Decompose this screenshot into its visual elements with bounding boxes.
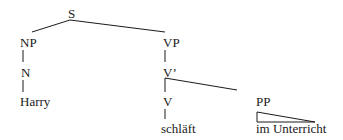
node-s: S [68,7,75,20]
node-np: NP [20,36,37,49]
edge-s-np [32,20,70,32]
node-n: N [21,66,30,79]
leaf-harry: Harry [20,95,50,108]
leaf-schlaeft: schläft [161,122,196,135]
node-vp: VP [163,36,180,49]
leaf-im-unterricht: im Unterricht [256,122,326,135]
node-pp: PP [256,95,270,108]
syntax-tree-diagram: S NP N Harry VP V’ V schläft PP im Unter… [0,0,343,140]
node-v: V [163,95,172,108]
edge-s-vp [70,20,165,32]
node-vbar: V’ [163,66,177,79]
